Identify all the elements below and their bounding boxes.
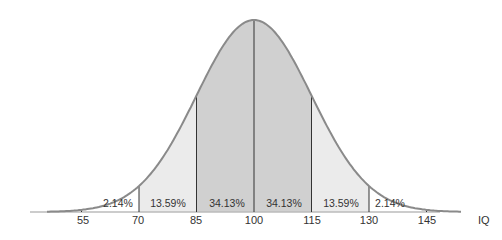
x-tick-130: 130: [360, 214, 378, 226]
x-tick-55: 55: [77, 214, 89, 226]
region-label-130-145: 2.14%: [375, 197, 405, 209]
region-label-100-115: 34.13%: [266, 197, 302, 209]
x-tick-85: 85: [190, 214, 202, 226]
region-fill: [197, 20, 255, 212]
x-tick-70: 70: [132, 214, 144, 226]
x-tick-145: 145: [418, 214, 436, 226]
region-label-115-130: 13.59%: [323, 197, 359, 209]
region-label-70-85: 13.59%: [150, 197, 186, 209]
sd-dividers: [82, 20, 427, 212]
region-label-55-70: 2.14%: [103, 197, 133, 209]
x-tick-100: 100: [245, 214, 263, 226]
region-fill: [254, 20, 312, 212]
region-label-85-100: 34.13%: [209, 197, 245, 209]
x-tick-115: 115: [303, 214, 321, 226]
x-axis-title: IQ: [478, 214, 490, 226]
normal-distribution-chart: [0, 0, 502, 240]
